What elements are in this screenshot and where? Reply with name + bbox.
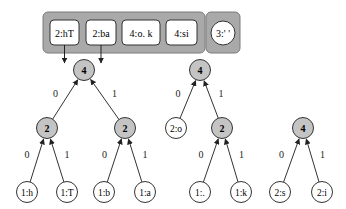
edge-label-1: 1 <box>219 88 224 99</box>
queue-extra-item: 3:' ' <box>211 21 235 45</box>
node-label: 2 <box>123 123 128 134</box>
leaf-node: 2:s <box>270 182 291 203</box>
leaf-node: 2:i <box>312 182 333 203</box>
node-label: 2:o <box>170 124 182 134</box>
node-label: 1:T <box>60 188 73 198</box>
node-label: 4 <box>301 123 306 134</box>
tree-edge <box>107 139 121 182</box>
internal-node: 4 <box>293 118 314 139</box>
edge-label-1: 1 <box>239 149 244 160</box>
node-label: 4 <box>198 65 203 76</box>
node-label: 2:i <box>317 188 327 198</box>
tree-edge <box>128 139 141 182</box>
internal-node: 2 <box>37 118 58 139</box>
edge-label-0: 0 <box>279 149 284 160</box>
leaf-node: 1:a <box>135 182 156 203</box>
internal-node: 2 <box>212 118 233 139</box>
tree-edge <box>306 139 319 182</box>
edge-label-1: 1 <box>112 88 117 99</box>
tree-edge <box>91 79 119 119</box>
tree-edge <box>30 139 43 182</box>
edge-label-0: 0 <box>176 88 181 99</box>
leaf-node: 1:b <box>94 182 115 203</box>
leaf-node: 1:. <box>190 182 211 203</box>
node-label: 1:k <box>235 188 247 198</box>
queue-item-2: 4:o. k <box>122 20 160 45</box>
edge-label-0: 0 <box>53 88 58 99</box>
queue-item-label: 4:o. k <box>130 28 153 39</box>
tree-edge <box>53 80 78 119</box>
queue-item-label: 2:ba <box>92 28 110 39</box>
queue-item-label: 4:si <box>174 28 189 39</box>
huffman-diagram: 2:hT 2:ba 4:o. k 4:si 3:' ' 010101010101… <box>0 0 346 209</box>
edge-label-1: 1 <box>320 149 325 160</box>
edge-label-0: 0 <box>102 149 107 160</box>
edge-label-0: 0 <box>199 149 204 160</box>
edge-label-1: 1 <box>65 149 70 160</box>
node-label: 2 <box>220 123 225 134</box>
tree-edge <box>225 139 238 182</box>
node-label: 2:s <box>274 188 285 198</box>
node-label: 1:h <box>21 188 33 198</box>
queue-extra-label: 3:' ' <box>216 28 230 39</box>
edge-label-0: 0 <box>25 149 30 160</box>
internal-node: 4 <box>190 60 211 81</box>
queue-item-label: 2:hT <box>55 28 74 39</box>
tree-edge <box>284 139 300 182</box>
tree-edge <box>50 139 63 182</box>
queue-item-1: 2:ba <box>86 20 116 45</box>
leaf-node: 2:o <box>166 118 187 139</box>
leaf-node: 1:k <box>231 182 252 203</box>
tree-edge <box>204 81 218 118</box>
node-label: 1:a <box>139 188 151 198</box>
leaf-node: 1:h <box>17 182 38 203</box>
node-label: 1:b <box>98 188 110 198</box>
tree-edge <box>180 81 196 119</box>
internal-node: 4 <box>74 60 95 81</box>
edge-label-1: 1 <box>143 149 148 160</box>
tree-edge <box>203 139 218 182</box>
node-label: 1:. <box>195 188 205 198</box>
node-label: 2 <box>45 123 50 134</box>
queue-item-3: 4:si <box>166 20 197 45</box>
leaf-node: 1:T <box>57 182 78 203</box>
node-label: 4 <box>82 65 87 76</box>
queue-item-0: 2:hT <box>50 20 79 45</box>
internal-node: 2 <box>115 118 136 139</box>
